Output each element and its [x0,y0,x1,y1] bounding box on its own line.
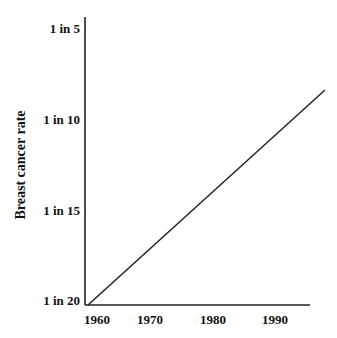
y-axis-title: Breast cancer rate [13,110,28,219]
x-tick-label: 1960 [84,312,110,327]
x-tick-label: 1970 [137,312,163,327]
chart: 1 in 5 1 in 10 1 in 15 1 in 20 1960 1970… [0,0,337,338]
y-tick-label: 1 in 5 [50,21,81,36]
y-tick-label: 1 in 20 [43,293,80,308]
x-tick-label: 1980 [200,312,226,327]
x-tick-label: 1990 [262,312,288,327]
y-tick-label: 1 in 10 [43,112,80,127]
series-line [88,90,325,305]
y-tick-label: 1 in 15 [43,203,80,218]
